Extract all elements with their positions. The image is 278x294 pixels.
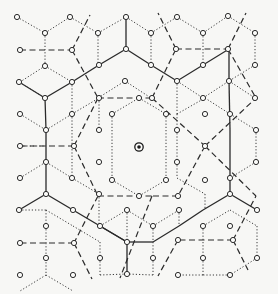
edge-solid xyxy=(203,194,230,210)
lattice-node xyxy=(227,191,232,196)
lattice-node xyxy=(42,95,47,100)
lattice-node xyxy=(136,193,141,198)
lattice-node xyxy=(67,14,72,19)
lattice-node xyxy=(124,271,129,276)
edge-dotted xyxy=(229,81,255,98)
lattice-node xyxy=(148,62,153,67)
edge-dotted xyxy=(153,210,179,226)
lattice-node xyxy=(43,191,48,196)
edge-dotted xyxy=(20,162,46,178)
edge-dashed xyxy=(152,98,205,146)
edge-dotted xyxy=(126,17,151,33)
edge-dotted xyxy=(205,98,230,114)
edge-solid xyxy=(203,49,229,65)
edge-dotted xyxy=(45,66,72,82)
lattice-node xyxy=(97,255,102,260)
edge-dotted xyxy=(127,210,153,226)
edge-dashed xyxy=(178,146,205,196)
edge-dotted xyxy=(72,98,99,114)
edge-solid xyxy=(45,82,72,98)
lattice-node xyxy=(202,111,207,116)
edge-dotted xyxy=(177,178,205,194)
lattice-node xyxy=(17,143,22,148)
lattice-node xyxy=(200,30,205,35)
edge-dashed xyxy=(158,13,176,49)
lattice-node xyxy=(71,143,76,148)
edge-dashed xyxy=(72,15,90,50)
lattice-node xyxy=(96,62,101,67)
edge-dashed xyxy=(228,49,256,98)
lattice-node xyxy=(173,46,178,51)
center-point-icon xyxy=(135,143,143,151)
lattice-node xyxy=(17,272,22,277)
lattice-node xyxy=(96,127,101,132)
lattice-node xyxy=(17,111,22,116)
lattice-node xyxy=(174,127,179,132)
edge-dashed xyxy=(74,196,98,243)
lattice-node xyxy=(149,95,154,100)
lattice-node xyxy=(69,175,74,180)
lattice-node xyxy=(136,95,141,100)
lattice-node xyxy=(176,207,181,212)
lattice-node xyxy=(17,240,22,245)
lattice-node xyxy=(123,14,128,19)
lattice-node xyxy=(175,193,180,198)
lattice-node xyxy=(200,62,205,67)
edges-layer xyxy=(17,13,257,291)
lattice-node xyxy=(148,30,153,35)
edge-dotted xyxy=(230,162,256,178)
edge-solid xyxy=(72,65,99,82)
lattice-node xyxy=(200,255,205,260)
edge-dotted xyxy=(73,226,100,242)
lattice-node xyxy=(124,239,129,244)
lattice-node xyxy=(69,111,74,116)
lattice-node xyxy=(226,78,231,83)
edge-dotted xyxy=(203,16,228,33)
edge-dotted xyxy=(46,210,73,226)
edge-dotted xyxy=(20,114,46,130)
lattice-node xyxy=(17,47,22,52)
edge-dotted xyxy=(177,17,203,33)
lattice-node xyxy=(227,175,232,180)
edge-dotted xyxy=(46,162,72,178)
edge-dotted xyxy=(229,65,255,81)
lattice-node xyxy=(122,78,127,83)
edge-solid xyxy=(179,210,203,226)
lattice-node xyxy=(252,95,257,100)
lattice-node xyxy=(253,159,258,164)
edge-dotted xyxy=(72,178,99,194)
edge-dotted xyxy=(45,17,70,33)
lattice-node xyxy=(17,175,22,180)
lattice-node xyxy=(200,95,205,100)
edge-dotted xyxy=(177,98,205,114)
lattice-node xyxy=(150,255,155,260)
lattice-node xyxy=(16,79,21,84)
lattice-node xyxy=(174,159,179,164)
edge-solid xyxy=(126,49,151,65)
lattice-node xyxy=(227,223,232,228)
lattice-node xyxy=(230,237,235,242)
lattice-node xyxy=(252,30,257,35)
edge-dashed xyxy=(74,243,92,279)
lattice-node xyxy=(96,191,101,196)
tiling-lattice-figure xyxy=(0,0,278,294)
tiling-diagram xyxy=(0,0,278,294)
lattice-node xyxy=(163,177,168,182)
edge-dashed xyxy=(228,13,246,49)
edge-dotted xyxy=(100,210,127,226)
edge-dotted xyxy=(230,114,256,130)
edge-dotted xyxy=(98,81,125,98)
edge-dotted xyxy=(112,98,139,114)
lattice-node xyxy=(96,159,101,164)
edge-solid xyxy=(177,65,203,81)
lattice-node xyxy=(227,272,232,277)
edge-dotted xyxy=(98,17,126,33)
lattice-node xyxy=(43,223,48,228)
lattice-node xyxy=(97,223,102,228)
edge-dotted xyxy=(203,81,229,98)
lattice-node xyxy=(109,177,114,182)
lattice-node xyxy=(175,272,180,277)
lattice-node xyxy=(109,111,114,116)
edge-dotted xyxy=(100,274,127,275)
edge-dotted xyxy=(177,81,203,98)
